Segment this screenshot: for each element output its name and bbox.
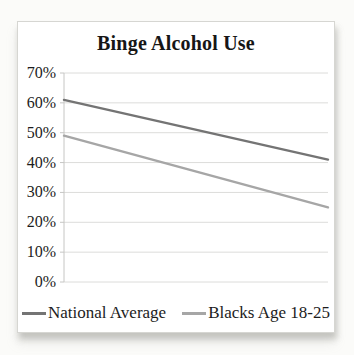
y-axis-tick-label: 0% [18, 273, 56, 291]
y-axis: 0%10%20%30%40%50%60%70% [18, 22, 58, 332]
series-line-blacks-age-18-25 [64, 136, 328, 208]
y-axis-tick-label: 30% [18, 183, 56, 201]
legend-item-blacks-age-18-25: Blacks Age 18-25 [182, 303, 330, 323]
y-axis-tick-label: 70% [18, 64, 56, 82]
legend-item-national-average: National Average [22, 303, 166, 323]
chart-container: Binge Alcohol Use 0%10%20%30%40%50%60%70… [17, 21, 335, 333]
y-axis-tick-label: 20% [18, 213, 56, 231]
y-axis-tick-label: 60% [18, 94, 56, 112]
legend-label: National Average [48, 303, 166, 323]
legend: National AverageBlacks Age 18-25 [18, 303, 334, 323]
legend-line-swatch [182, 312, 206, 315]
series-line-national-average [64, 100, 328, 160]
chart-title: Binge Alcohol Use [18, 32, 334, 55]
legend-line-swatch [22, 312, 46, 315]
y-axis-tick-label: 50% [18, 124, 56, 142]
legend-label: Blacks Age 18-25 [208, 303, 330, 323]
plot-lines-svg [64, 73, 328, 282]
y-axis-tick-label: 40% [18, 154, 56, 172]
y-axis-tick-label: 10% [18, 243, 56, 261]
plot-area [64, 73, 328, 282]
